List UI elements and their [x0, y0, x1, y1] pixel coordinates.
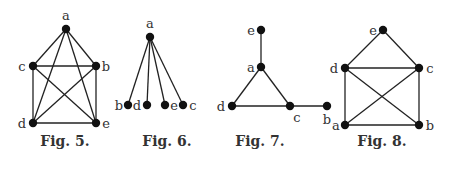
vertex-c: [286, 102, 294, 110]
fig7-caption: Fig. 7.: [235, 133, 284, 149]
vertex-label-a: a: [146, 16, 154, 31]
vertex-label-b: b: [102, 59, 110, 74]
vertex-label-d: d: [18, 116, 26, 131]
vertex-e: [92, 119, 100, 127]
vertex-label-c: c: [189, 98, 196, 113]
vertex-c: [179, 101, 187, 109]
figure-canvas: abcdeFig. 5.abdecFig. 6.eadcbFig. 7.edca…: [0, 0, 455, 170]
edge-a-e: [150, 37, 165, 105]
vertex-label-e: e: [170, 98, 178, 113]
fig8-graph: edcabFig. 8.: [330, 23, 434, 149]
vertex-b: [92, 62, 100, 70]
vertex-label-e: e: [369, 23, 377, 38]
vertex-label-d: d: [330, 61, 338, 76]
edge-a-d: [147, 37, 150, 105]
vertex-label-c: c: [293, 110, 300, 125]
vertex-d: [341, 64, 349, 72]
vertex-label-b: b: [426, 118, 434, 133]
edge-e-c: [383, 30, 419, 68]
edge-a-b: [128, 37, 150, 105]
fig8-caption: Fig. 8.: [357, 133, 406, 149]
vertex-b: [124, 101, 132, 109]
vertex-label-c: c: [426, 61, 433, 76]
vertex-label-d: d: [133, 98, 141, 113]
vertex-label-a: a: [247, 60, 255, 75]
vertex-label-e: e: [102, 116, 110, 131]
fig6-caption: Fig. 6.: [142, 133, 191, 149]
vertex-c: [29, 62, 37, 70]
vertex-a: [341, 121, 349, 129]
edge-a-b: [66, 29, 96, 66]
vertex-label-b: b: [115, 98, 123, 113]
vertex-d: [143, 101, 151, 109]
edge-a-c: [33, 29, 66, 66]
vertex-b: [323, 102, 331, 110]
vertex-c: [415, 64, 423, 72]
vertex-e: [161, 101, 169, 109]
edge-a-c: [150, 37, 183, 105]
vertex-label-e: e: [247, 23, 255, 38]
vertex-label-a: a: [332, 118, 340, 133]
vertex-a: [257, 63, 265, 71]
fig5-caption: Fig. 5.: [40, 133, 89, 149]
fig5-graph: abcdeFig. 5.: [18, 8, 110, 149]
vertex-label-d: d: [217, 99, 225, 114]
fig6-graph: abdecFig. 6.: [115, 16, 197, 149]
fig7-graph: eadcbFig. 7.: [217, 23, 331, 149]
vertex-e: [257, 26, 265, 34]
vertex-a: [62, 25, 70, 33]
vertex-e: [379, 26, 387, 34]
vertex-label-b: b: [323, 112, 331, 127]
vertex-b: [415, 121, 423, 129]
edge-e-d: [345, 30, 383, 68]
vertex-label-c: c: [18, 59, 25, 74]
vertex-label-a: a: [62, 8, 70, 23]
vertex-d: [228, 102, 236, 110]
vertex-d: [29, 119, 37, 127]
edge-a-c: [261, 67, 290, 106]
vertex-a: [146, 33, 154, 41]
